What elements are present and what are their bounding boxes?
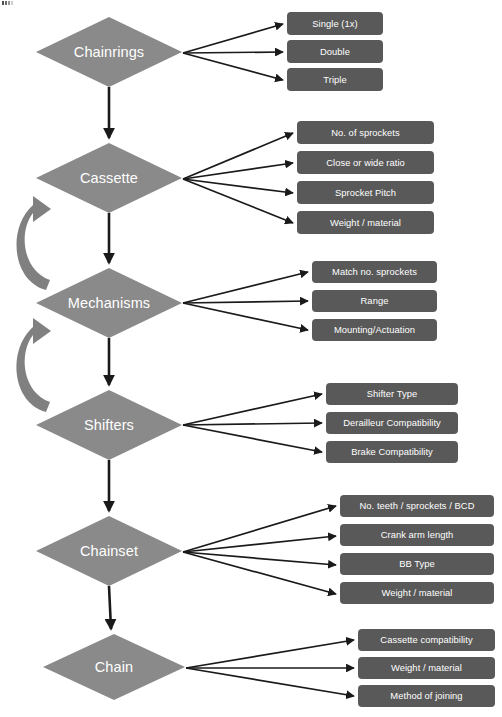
branch-box[interactable]	[358, 629, 495, 651]
branch-box[interactable]	[287, 68, 383, 91]
branch-box[interactable]	[312, 290, 437, 312]
branch-arrows-cassette	[183, 133, 293, 223]
branch-box[interactable]	[340, 524, 494, 546]
flowchart-canvas	[0, 0, 502, 717]
node-cassette[interactable]	[36, 143, 182, 213]
node-chain[interactable]	[43, 634, 185, 700]
branch-arrows-chain	[186, 640, 354, 696]
node-chainrings[interactable]	[36, 17, 182, 87]
branch-box[interactable]	[297, 151, 434, 174]
branch-box[interactable]	[358, 657, 495, 679]
branch-box[interactable]	[326, 383, 458, 405]
branch-arrows-shifters	[183, 394, 322, 452]
branch-arrows-chainrings	[183, 24, 283, 80]
node-chainset[interactable]	[36, 516, 182, 586]
branch-box[interactable]	[287, 40, 383, 63]
node-shifters[interactable]	[36, 390, 182, 460]
branch-box[interactable]	[340, 582, 494, 604]
branch-box[interactable]	[312, 261, 437, 283]
branch-box[interactable]	[326, 441, 458, 463]
branch-box[interactable]	[312, 319, 437, 341]
branch-arrows-mechanisms	[183, 272, 308, 330]
branch-box[interactable]	[297, 121, 434, 144]
branch-box[interactable]	[297, 211, 434, 234]
feedback-loop-mechanisms-to-cassette	[16, 196, 51, 290]
flow-connector-chainset-chain	[109, 586, 111, 629]
branch-box[interactable]	[297, 181, 434, 204]
feedback-loop-shifters-to-mechanisms	[16, 318, 51, 412]
branch-box[interactable]	[358, 685, 495, 707]
branch-box[interactable]	[340, 553, 494, 575]
branch-arrows-chainset	[183, 506, 336, 594]
node-mechanisms[interactable]	[36, 268, 182, 338]
branch-box[interactable]	[326, 412, 458, 434]
branch-box[interactable]	[287, 12, 383, 35]
branch-box[interactable]	[340, 495, 494, 517]
